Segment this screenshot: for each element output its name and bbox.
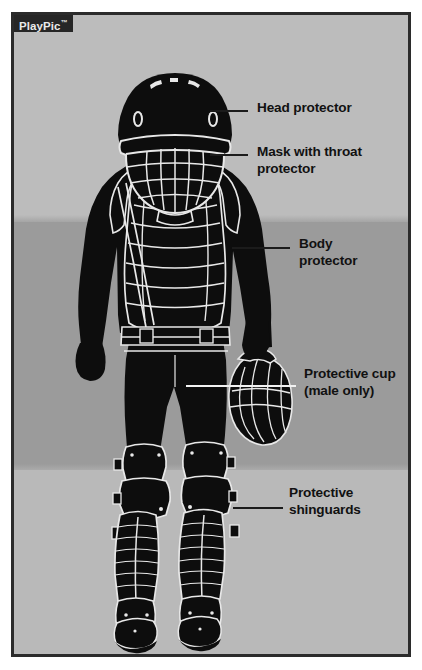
playpic-watermark: PlayPic™ [14, 15, 73, 32]
playpic-watermark-text: PlayPic [19, 20, 61, 32]
leader-line-protective-shinguards [233, 507, 283, 509]
callout-label-body-protector: Body protector [299, 236, 357, 269]
leader-line-protective-cup [186, 385, 296, 387]
callout-label-protective-shinguards: Protective shinguards [289, 485, 361, 518]
callout-layer: Head protector Mask with throat protecto… [14, 15, 408, 654]
callout-label-mask-throat-protector: Mask with throat protector [257, 144, 362, 177]
playpic-figure-panel: PlayPic™ [11, 12, 411, 657]
leader-line-head-protector [210, 110, 248, 112]
callout-label-head-protector: Head protector [257, 100, 352, 117]
trademark-icon: ™ [61, 19, 68, 26]
leader-line-mask-throat-protector [210, 154, 248, 156]
callout-label-protective-cup: Protective cup (male only) [304, 366, 396, 399]
leader-line-body-protector [232, 247, 290, 249]
